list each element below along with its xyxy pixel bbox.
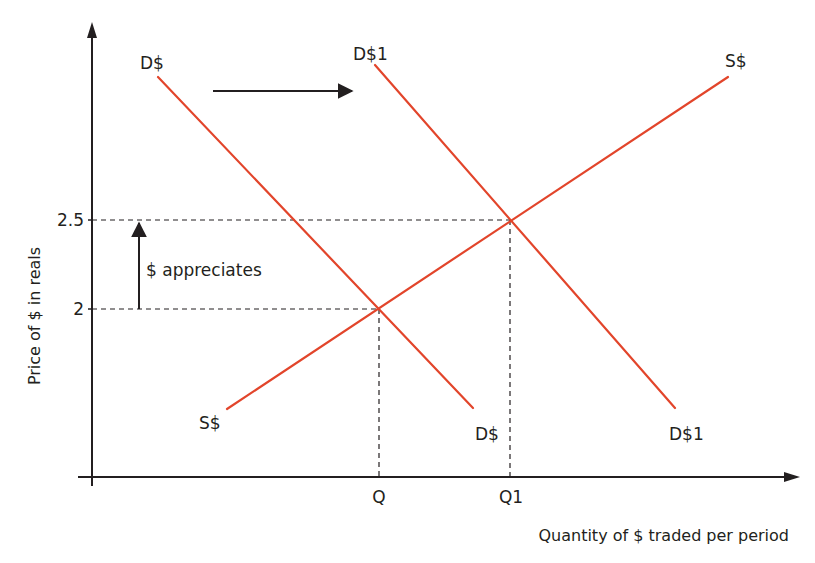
label-s-top: S$ bbox=[725, 51, 747, 71]
y-tick-label-2-5: 2.5 bbox=[57, 210, 84, 230]
appreciates-label: $ appreciates bbox=[146, 260, 262, 280]
x-axis-arrow-icon bbox=[784, 472, 800, 482]
y-tick-label-2: 2 bbox=[73, 299, 84, 319]
label-d1-bottom: D$1 bbox=[669, 424, 704, 444]
label-d1-top: D$1 bbox=[353, 44, 388, 64]
label-d-top: D$ bbox=[140, 53, 164, 73]
axes bbox=[78, 22, 800, 486]
y-axis-arrow-icon bbox=[87, 22, 97, 38]
supply-demand-chart: D$ D$1 S$ S$ D$ D$1 $ appreciates 2.5 2 … bbox=[0, 0, 815, 563]
x-tick-label-q: Q bbox=[372, 487, 385, 507]
curves bbox=[158, 65, 728, 409]
demand-curve-d bbox=[158, 77, 473, 408]
label-s-bottom: S$ bbox=[199, 413, 221, 433]
y-axis-title: Price of $ in reals bbox=[25, 247, 44, 385]
chart-svg: D$ D$1 S$ S$ D$ D$1 $ appreciates 2.5 2 … bbox=[0, 0, 815, 563]
label-d-bottom: D$ bbox=[475, 424, 499, 444]
supply-curve-s bbox=[227, 77, 728, 409]
demand-curve-d1 bbox=[375, 65, 675, 408]
x-axis-title: Quantity of $ traded per period bbox=[538, 526, 789, 545]
x-tick-label-q1: Q1 bbox=[499, 487, 523, 507]
guide-lines bbox=[92, 220, 510, 477]
